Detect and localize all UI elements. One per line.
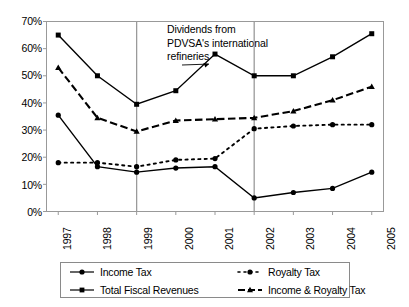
data-point-royalty-tax-1999 (134, 164, 139, 169)
data-point-royalty-tax-2004 (330, 122, 335, 127)
legend-label-income-tax: Income Tax (100, 267, 152, 278)
data-point-royalty-tax-2000 (173, 157, 178, 162)
data-point-total-fiscal-revenues-2004 (330, 54, 335, 59)
legend-item-income-tax[interactable]: Income Tax (61, 263, 229, 281)
data-point-total-fiscal-revenues-1998 (95, 73, 100, 78)
chart-legend: Income Tax Royalty Tax Total Fiscal Reve… (60, 262, 350, 298)
legend-label-income-royalty-tax: Income & Royalty Tax (268, 285, 365, 296)
data-point-income-tax-1997 (56, 113, 61, 118)
data-point-royalty-tax-2002 (252, 126, 257, 131)
data-point-income-tax-2005 (369, 170, 374, 175)
legend-item-total-fiscal-revenues[interactable]: Total Fiscal Revenues (61, 281, 229, 299)
data-point-royalty-tax-2003 (291, 123, 296, 128)
data-point-income-tax-2002 (252, 195, 257, 200)
data-point-total-fiscal-revenues-1997 (56, 33, 61, 38)
legend-label-royalty-tax: Royalty Tax (268, 267, 320, 278)
data-point-income-royalty-tax-1997 (55, 65, 61, 71)
data-point-royalty-tax-2001 (212, 156, 217, 161)
data-point-total-fiscal-revenues-2000 (173, 88, 178, 93)
data-point-income-tax-1999 (134, 170, 139, 175)
legend-swatch-total-fiscal-revenues (69, 284, 95, 296)
legend-item-income-royalty-tax[interactable]: Income & Royalty Tax (229, 281, 351, 299)
data-point-royalty-tax-2005 (369, 122, 374, 127)
data-point-total-fiscal-revenues-2001 (213, 52, 218, 57)
data-point-total-fiscal-revenues-2002 (252, 73, 257, 78)
legend-item-royalty-tax[interactable]: Royalty Tax (229, 263, 351, 281)
legend-swatch-income-royalty-tax (237, 284, 263, 296)
data-point-income-tax-2004 (330, 186, 335, 191)
data-point-income-tax-2001 (212, 164, 217, 169)
data-point-total-fiscal-revenues-1999 (134, 102, 139, 107)
data-point-income-tax-2003 (291, 190, 296, 195)
legend-label-total-fiscal-revenues: Total Fiscal Revenues (100, 285, 199, 296)
data-point-total-fiscal-revenues-2005 (369, 31, 374, 36)
data-point-royalty-tax-1997 (56, 160, 61, 165)
series-layer (0, 0, 409, 307)
legend-swatch-royalty-tax (237, 266, 263, 278)
data-point-total-fiscal-revenues-2003 (291, 73, 296, 78)
data-point-income-tax-2000 (173, 165, 178, 170)
legend-swatch-income-tax (69, 266, 95, 278)
chart-root: 70% 60% 50% 40% 30% 20% 10% 0% 1997 1998… (0, 0, 409, 307)
data-point-royalty-tax-1998 (95, 160, 100, 165)
